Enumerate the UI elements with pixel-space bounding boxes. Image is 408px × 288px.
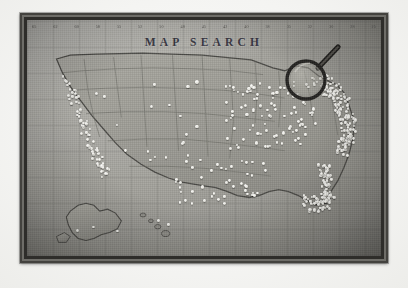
push-pin[interactable]: [346, 104, 349, 107]
push-pin[interactable]: [342, 153, 344, 155]
push-pin[interactable]: [96, 158, 98, 160]
push-pin[interactable]: [272, 92, 275, 95]
push-pin[interactable]: [273, 104, 276, 107]
push-pin[interactable]: [252, 124, 255, 127]
push-pin[interactable]: [213, 192, 216, 195]
push-pin[interactable]: [256, 93, 259, 96]
push-pin[interactable]: [267, 145, 269, 147]
push-pin[interactable]: [275, 91, 278, 94]
push-pin[interactable]: [71, 95, 73, 97]
push-pin[interactable]: [237, 146, 240, 149]
push-pin[interactable]: [346, 154, 349, 157]
push-pin[interactable]: [179, 186, 181, 188]
push-pin[interactable]: [73, 89, 75, 91]
push-pin[interactable]: [317, 163, 320, 166]
push-pin[interactable]: [328, 207, 331, 210]
push-pin[interactable]: [200, 176, 203, 179]
push-pin[interactable]: [339, 118, 342, 121]
push-pin[interactable]: [325, 166, 327, 168]
push-pin[interactable]: [232, 86, 234, 88]
push-pin[interactable]: [345, 110, 348, 113]
push-pin[interactable]: [223, 202, 226, 205]
push-pin[interactable]: [333, 196, 335, 198]
push-pin[interactable]: [167, 223, 170, 226]
push-pin[interactable]: [185, 160, 188, 163]
push-pin[interactable]: [332, 97, 335, 100]
push-pin[interactable]: [185, 133, 188, 136]
push-pin[interactable]: [251, 161, 254, 164]
push-pin[interactable]: [186, 85, 189, 88]
push-pin[interactable]: [321, 196, 324, 199]
push-pin[interactable]: [321, 185, 323, 187]
push-pin[interactable]: [313, 209, 316, 212]
push-pin[interactable]: [352, 137, 355, 140]
map-face[interactable]: 65 62 60 58 55 52 50 48 45 42 40 38 35 3…: [27, 20, 381, 256]
push-pin[interactable]: [216, 163, 218, 165]
push-pin[interactable]: [251, 174, 253, 176]
push-pin[interactable]: [225, 85, 228, 88]
push-pin[interactable]: [282, 131, 285, 134]
push-pin[interactable]: [337, 103, 340, 106]
push-pin[interactable]: [288, 86, 291, 89]
push-pin[interactable]: [225, 101, 228, 104]
push-pin[interactable]: [274, 108, 277, 111]
push-pin[interactable]: [336, 149, 339, 152]
push-pin[interactable]: [75, 96, 78, 99]
push-pin[interactable]: [211, 195, 214, 198]
push-pin[interactable]: [329, 193, 332, 196]
push-pin[interactable]: [223, 195, 226, 198]
push-pin[interactable]: [343, 93, 345, 95]
push-pin[interactable]: [240, 182, 243, 185]
push-pin[interactable]: [78, 112, 81, 115]
push-pin[interactable]: [333, 100, 335, 102]
push-pin[interactable]: [262, 162, 265, 165]
push-pin[interactable]: [320, 172, 323, 175]
push-pin[interactable]: [217, 198, 220, 201]
push-pin[interactable]: [85, 131, 88, 134]
push-pin[interactable]: [319, 207, 322, 210]
push-pin[interactable]: [244, 189, 247, 192]
push-pin[interactable]: [103, 95, 106, 98]
push-pin[interactable]: [92, 152, 95, 155]
push-pin[interactable]: [272, 97, 274, 99]
push-pin[interactable]: [312, 107, 315, 110]
push-pin[interactable]: [292, 94, 295, 97]
push-pin[interactable]: [283, 115, 285, 117]
push-pin[interactable]: [220, 167, 222, 169]
push-pin[interactable]: [326, 179, 329, 182]
push-pin[interactable]: [249, 90, 252, 93]
push-pin[interactable]: [303, 204, 306, 207]
push-pin[interactable]: [147, 150, 150, 153]
push-pin[interactable]: [237, 91, 239, 93]
push-pin[interactable]: [247, 87, 250, 90]
push-pin[interactable]: [259, 104, 262, 107]
push-pin[interactable]: [317, 203, 320, 206]
push-pin[interactable]: [324, 193, 327, 196]
push-pin[interactable]: [86, 144, 89, 147]
push-pin[interactable]: [304, 126, 306, 128]
push-pin[interactable]: [337, 145, 340, 148]
push-pin[interactable]: [201, 185, 204, 188]
push-pin[interactable]: [308, 208, 311, 211]
push-pin[interactable]: [326, 75, 328, 77]
push-pin[interactable]: [281, 142, 283, 144]
push-pin[interactable]: [179, 115, 181, 117]
push-pin[interactable]: [293, 106, 295, 108]
push-pin[interactable]: [342, 106, 344, 108]
push-pin[interactable]: [68, 98, 71, 101]
push-pin[interactable]: [124, 149, 127, 152]
push-pin[interactable]: [268, 86, 271, 89]
push-pin[interactable]: [195, 80, 198, 83]
push-pin[interactable]: [82, 122, 84, 124]
push-pin[interactable]: [287, 92, 290, 95]
push-pin[interactable]: [325, 94, 328, 97]
push-pin[interactable]: [314, 122, 317, 125]
push-pin[interactable]: [302, 101, 305, 104]
push-pin[interactable]: [184, 199, 187, 202]
push-pin[interactable]: [255, 141, 258, 144]
push-pin[interactable]: [252, 110, 254, 112]
push-pin[interactable]: [325, 184, 328, 187]
push-pin[interactable]: [97, 152, 100, 155]
push-pin[interactable]: [153, 83, 156, 86]
push-pin[interactable]: [322, 75, 325, 78]
